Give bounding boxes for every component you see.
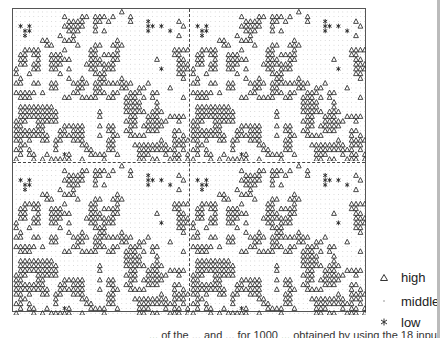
legend-label-middle: middle (401, 294, 439, 309)
plot-frame (12, 8, 366, 312)
legend-item-low: low (376, 314, 421, 330)
dot-icon (376, 299, 392, 303)
panel-bottom-left (13, 163, 189, 315)
legend-item-middle: middle (376, 293, 439, 309)
triangle-icon (376, 274, 392, 281)
asterisk-icon (376, 318, 392, 326)
panel-top-left (13, 9, 189, 161)
panel-top-right (190, 9, 366, 161)
legend-item-high: high (376, 269, 426, 285)
horizontal-divider (13, 162, 365, 163)
legend-label-high: high (401, 270, 426, 285)
legend-label-low: low (401, 315, 421, 330)
figure-caption: ... of the ... and ... for 1000 ... obta… (40, 329, 440, 338)
panel-bottom-right (190, 163, 366, 315)
vertical-divider (189, 9, 190, 311)
